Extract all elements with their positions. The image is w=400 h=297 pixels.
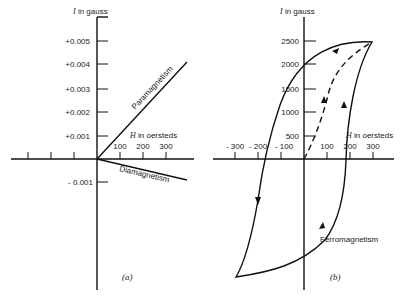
- arrow-icon: [332, 48, 339, 54]
- b-x-tick-label: - 100: [275, 142, 294, 151]
- arrow-icon: [319, 222, 325, 229]
- ferromagnetism-label: Ferromagnetism: [320, 235, 379, 244]
- arrow-icon: [255, 197, 261, 205]
- a-y-tick-label: +0.003: [65, 85, 90, 94]
- b-caption: (b): [330, 272, 341, 282]
- a-x-tick-label: 300: [159, 142, 173, 151]
- b-y-tick-label: 1500: [281, 85, 299, 94]
- a-y-tick-label: +0.005: [65, 37, 90, 46]
- b-x-tick-label: - 200: [249, 142, 268, 151]
- panel-a: +0.005 +0.004 +0.003 +0.002 +0.001 - 0.0…: [11, 7, 194, 290]
- b-x-tick-label: - 300: [226, 142, 245, 151]
- b-y-tick-label: 2500: [281, 37, 299, 46]
- b-x-tick-label: 300: [366, 142, 380, 151]
- arrow-icon: [321, 96, 327, 103]
- a-y-tick-label: - 0.001: [68, 178, 93, 187]
- b-y-axis-title: I in gauss: [279, 7, 315, 16]
- b-x-axis-title: H in oersteds: [345, 131, 393, 140]
- panel-b: 2500 2000 1500 1000 500 - 300 - 200 - 10…: [213, 7, 394, 290]
- a-x-axis-title: H in oersteds: [129, 131, 177, 140]
- a-x-tick-label: 100: [113, 142, 127, 151]
- a-x-tick-label: 200: [136, 142, 150, 151]
- b-y-tick-label: 500: [286, 132, 300, 141]
- a-y-tick-label: +0.002: [65, 108, 90, 117]
- a-y-tick-label: +0.001: [65, 132, 90, 141]
- b-x-tick-label: 100: [320, 142, 334, 151]
- b-x-tick-label: 200: [343, 142, 357, 151]
- arrow-icon: [341, 101, 347, 108]
- magnetization-diagram: +0.005 +0.004 +0.003 +0.002 +0.001 - 0.0…: [0, 0, 400, 297]
- paramagnetism-label: Paramagnetism: [130, 64, 175, 111]
- diamagnetism-label: Diamagnetism: [119, 164, 171, 184]
- b-y-tick-label: 1000: [281, 108, 299, 117]
- a-y-axis-title: I in gauss: [72, 7, 108, 16]
- initial-magnetization-curve: [304, 42, 372, 159]
- b-y-tick-label: 2000: [281, 60, 299, 69]
- a-y-tick-label: +0.004: [65, 60, 90, 69]
- a-caption: (a): [122, 272, 133, 282]
